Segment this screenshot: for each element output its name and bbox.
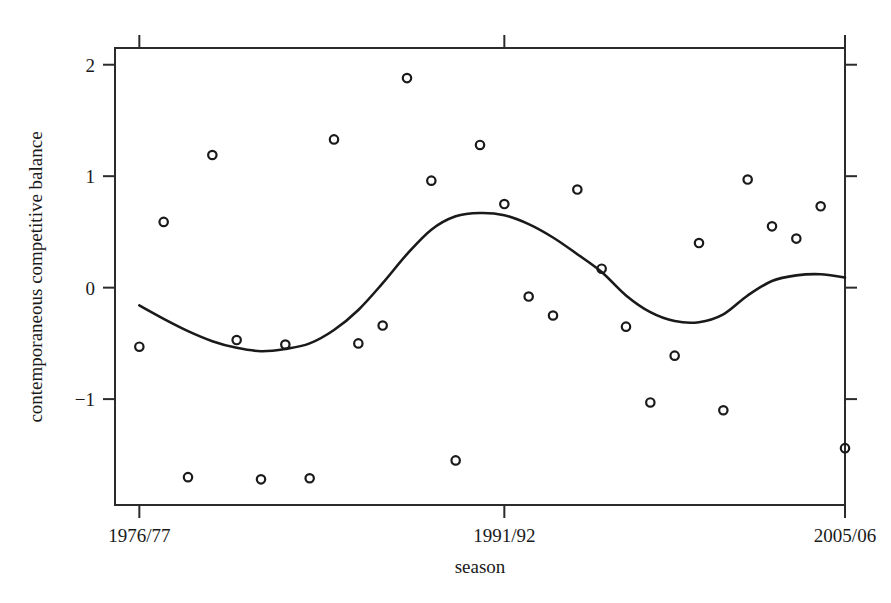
data-point	[354, 339, 362, 347]
data-point	[743, 175, 751, 183]
y-axis-tick-labels: 210−1	[75, 55, 95, 410]
y-tick-label: 1	[86, 166, 96, 187]
y-tick-label: 0	[86, 278, 96, 299]
data-point-markers	[135, 74, 849, 484]
scatter-plot-canvas: 210−1 1976/771991/922005/06 season conte…	[0, 0, 891, 603]
y-tick-label: −1	[75, 389, 95, 410]
data-point	[792, 234, 800, 242]
x-tick-label: 1991/92	[473, 525, 535, 546]
x-axis-tick-labels: 1976/771991/922005/06	[108, 525, 876, 546]
data-point	[622, 322, 630, 330]
data-point	[451, 456, 459, 464]
data-point	[573, 185, 581, 193]
data-point	[549, 311, 557, 319]
data-point	[257, 475, 265, 483]
x-axis-ticks	[139, 35, 845, 518]
data-point	[670, 351, 678, 359]
data-point	[135, 343, 143, 351]
data-point	[184, 473, 192, 481]
x-axis-title: season	[455, 556, 506, 577]
data-point	[719, 406, 727, 414]
chart-figure: 210−1 1976/771991/922005/06 season conte…	[0, 0, 891, 603]
data-point	[232, 336, 240, 344]
data-point	[816, 202, 824, 210]
plot-frame	[115, 48, 845, 505]
x-tick-label: 1976/77	[108, 525, 170, 546]
data-point	[646, 398, 654, 406]
data-point	[305, 474, 313, 482]
data-point	[427, 176, 435, 184]
y-axis-title: contemporaneous competitive balance	[25, 131, 46, 422]
data-point	[500, 200, 508, 208]
data-point	[403, 74, 411, 82]
smoothed-trend-line	[139, 213, 845, 351]
data-point	[159, 218, 167, 226]
data-point	[281, 340, 289, 348]
data-point	[524, 292, 532, 300]
data-point	[476, 141, 484, 149]
y-axis-ticks	[103, 65, 857, 399]
data-point	[695, 239, 703, 247]
data-point	[208, 151, 216, 159]
y-tick-label: 2	[86, 55, 96, 76]
data-point	[330, 135, 338, 143]
x-tick-label: 2005/06	[814, 525, 876, 546]
data-point	[768, 222, 776, 230]
data-point	[378, 321, 386, 329]
